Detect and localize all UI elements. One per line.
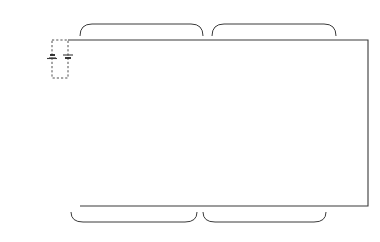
bottom-brace-0ch [71,212,197,222]
common-bus-wire [68,40,368,206]
bottom-brace-1ch [203,212,326,222]
top-brace-1ch [212,24,336,36]
wiring-diagram [0,0,380,242]
battery-icon [63,55,73,58]
dc-power-supply [47,40,73,78]
top-brace-0ch [80,24,203,36]
battery-icon [47,55,57,59]
